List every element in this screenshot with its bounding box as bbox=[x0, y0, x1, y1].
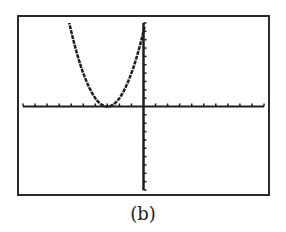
parabola-curve bbox=[68, 17, 145, 107]
graph-window bbox=[17, 15, 270, 196]
figure-caption: (b) bbox=[0, 203, 286, 224]
parabola-plot bbox=[19, 17, 268, 194]
